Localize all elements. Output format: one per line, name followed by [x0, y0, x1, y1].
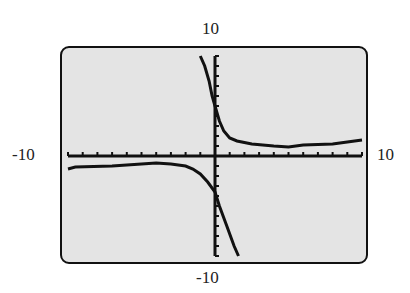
graph-plot [0, 0, 410, 293]
xmin-label: -10 [12, 145, 35, 165]
xmax-label: 10 [377, 145, 394, 165]
axes [68, 56, 362, 256]
ymax-label: 10 [202, 19, 219, 39]
ymin-label: -10 [196, 268, 219, 288]
